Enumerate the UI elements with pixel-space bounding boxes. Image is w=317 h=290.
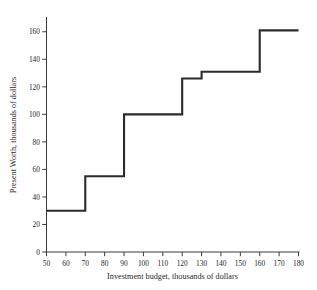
x-tick-label: 170: [274, 259, 285, 268]
x-tick-label: 140: [215, 259, 226, 268]
x-axis-title: Investment budget, thousands of dollars: [107, 272, 238, 281]
x-tick-label: 120: [177, 259, 188, 268]
x-tick-label: 180: [293, 259, 304, 268]
x-tick-label: 160: [254, 259, 265, 268]
y-tick-label: 20: [33, 220, 41, 229]
y-tick-label: 0: [36, 248, 40, 257]
x-tick-label: 130: [196, 259, 207, 268]
y-tick-label: 120: [29, 83, 40, 92]
y-tick-label: 140: [29, 55, 40, 64]
y-tick-label: 60: [33, 165, 41, 174]
x-tick-label: 60: [62, 259, 70, 268]
y-tick-label: 40: [33, 193, 41, 202]
y-tick-label: 80: [33, 138, 41, 147]
x-tick-label: 80: [101, 259, 109, 268]
step-chart: 0204060801001201401605060708090100110120…: [0, 0, 317, 290]
y-tick-label: 100: [29, 110, 40, 119]
y-tick-label: 160: [29, 27, 40, 36]
y-axis-title: Present Worth, thousands of dollars: [9, 77, 18, 193]
step-data-line: [47, 30, 299, 210]
plot-axes: [47, 17, 300, 252]
x-tick-label: 110: [157, 259, 168, 268]
x-tick-label: 90: [120, 259, 128, 268]
x-tick-label: 50: [43, 259, 51, 268]
x-tick-label: 70: [82, 259, 90, 268]
x-tick-label: 150: [235, 259, 246, 268]
x-tick-label: 100: [138, 259, 149, 268]
chart-figure: 0204060801001201401605060708090100110120…: [0, 0, 317, 290]
